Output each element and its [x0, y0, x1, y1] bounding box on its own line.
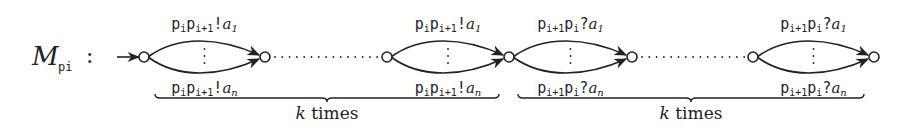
state-node-q1 [260, 52, 270, 62]
title-colon: : [86, 43, 93, 68]
edge-group [513, 41, 626, 73]
state-node-q2 [382, 52, 392, 62]
underbrace: k times [518, 94, 864, 123]
dotted-link-dot [656, 56, 658, 58]
dotted-link-dot [670, 56, 672, 58]
edge-group [148, 41, 259, 73]
dotted-link-dot [296, 56, 298, 58]
underbraces: k timesk times [155, 94, 864, 123]
transition-label: pi+1pi?a1 [780, 15, 847, 34]
transition-edge-top [391, 41, 503, 57]
dotted-link-dot [678, 56, 680, 58]
vertical-ellipsis-icon [204, 48, 206, 50]
underbrace: k times [155, 94, 499, 123]
dotted-link-dot [692, 56, 694, 58]
state-node-q4 [627, 52, 637, 62]
transition-label: pipi+1!an [171, 79, 238, 98]
transition-edge-top [513, 41, 626, 57]
transition-edge-top [148, 41, 259, 57]
dotted-link-dot [354, 56, 356, 58]
dotted-link-dot [743, 56, 745, 58]
dotted-link-dot [311, 56, 313, 58]
state-node-q0 [139, 52, 149, 62]
dotted-link-dot [340, 56, 342, 58]
dotted-link-dot [663, 56, 665, 58]
dotted-link-dot [641, 56, 643, 58]
dotted-link-dot [303, 56, 305, 58]
dotted-link-dot [318, 56, 320, 58]
title-subscript: pi [58, 60, 72, 74]
dotted-link-dot [685, 56, 687, 58]
dotted-link-dot [729, 56, 731, 58]
transition-edge-top [757, 41, 868, 57]
dotted-link-dot [736, 56, 738, 58]
transition-label: pi+1pi?an [780, 79, 847, 98]
brace-label: k times [296, 103, 359, 123]
dotted-link-dot [347, 56, 349, 58]
transition-edge-bottom [513, 57, 626, 73]
transition-edge-bottom [757, 57, 868, 73]
vertical-ellipsis-icon [570, 48, 572, 50]
vertical-ellipsis-icon [570, 55, 572, 57]
dotted-link-dot [707, 56, 709, 58]
transition-label: pipi+1!an [415, 79, 482, 98]
dotted-link-dot [369, 56, 371, 58]
state-node-q3 [504, 52, 514, 62]
state-node-q5 [748, 52, 758, 62]
edge-group [391, 41, 503, 73]
vertical-ellipsis-icon [447, 62, 449, 64]
vertical-ellipsis-icon [447, 55, 449, 57]
dotted-link-dot [325, 56, 327, 58]
vertical-ellipsis-icon [204, 62, 206, 64]
automaton-title: M pi : [31, 41, 93, 74]
dotted-link-dot [289, 56, 291, 58]
dotted-link-dot [333, 56, 335, 58]
brace-label: k times [660, 103, 723, 123]
vertical-ellipsis-icon [447, 48, 449, 50]
dotted-link-dot [274, 56, 276, 58]
transition-label: pi+1pi?an [537, 79, 604, 98]
automaton-diagram: M pi : pipi+1!a1pipi+1!anpipi+1!a1pipi+1… [0, 0, 907, 133]
transition-edge-bottom [391, 57, 503, 73]
dotted-link-dot [376, 56, 378, 58]
title-main: M [31, 41, 60, 71]
edge-group [757, 41, 868, 73]
vertical-ellipsis-icon [570, 62, 572, 64]
dotted-link-dot [362, 56, 364, 58]
dotted-link-dot [281, 56, 283, 58]
vertical-ellipsis-icon [813, 62, 815, 64]
dotted-link-dot [721, 56, 723, 58]
transition-label: pipi+1!a1 [415, 15, 482, 34]
vertical-ellipsis-icon [813, 48, 815, 50]
state-node-q6 [869, 52, 879, 62]
dotted-link-dot [700, 56, 702, 58]
vertical-ellipsis-icon [813, 55, 815, 57]
transition-label: pi+1pi?a1 [537, 15, 604, 34]
vertical-ellipsis-icon [204, 55, 206, 57]
dotted-link-dot [714, 56, 716, 58]
transition-label: pipi+1!a1 [171, 15, 238, 34]
dotted-link-dot [648, 56, 650, 58]
transition-edge-bottom [148, 57, 259, 73]
states [139, 52, 879, 62]
